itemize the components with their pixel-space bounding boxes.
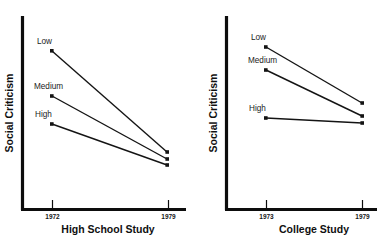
left-chart-point-medium-1972	[50, 94, 54, 98]
left-chart-tick-label-1979: 1979	[161, 213, 176, 220]
right-chart-series-high-line	[266, 118, 362, 123]
chart-panel-college-study: Low Medium High 1973 1979 College Study …	[196, 0, 386, 245]
right-chart-point-low-1979	[360, 101, 364, 105]
chart-panel-high-school-study: Low Medium High 1972 1979 High School St…	[0, 0, 196, 245]
right-chart-point-low-1973	[264, 45, 268, 49]
right-chart-series-label-high: High	[249, 104, 266, 113]
right-chart-series-label-medium: Medium	[248, 56, 277, 65]
left-chart-y-axis-title: Social Criticism	[3, 74, 15, 153]
right-chart-tick-label-1973: 1973	[259, 213, 274, 220]
left-chart-point-low-1979	[165, 150, 169, 154]
right-chart-tick-label-1979: 1979	[355, 213, 370, 220]
left-chart-x-axis-title: High School Study	[61, 223, 154, 235]
two-panel-line-chart-figure: Low Medium High 1972 1979 High School St…	[0, 0, 386, 245]
left-chart-svg: Low Medium High 1972 1979 High School St…	[0, 0, 196, 245]
right-chart-series-label-low: Low	[251, 33, 266, 42]
left-chart-tick-label-1972: 1972	[45, 213, 60, 220]
right-chart-series-medium-line	[266, 70, 362, 116]
right-chart-svg: Low Medium High 1973 1979 College Study …	[196, 0, 386, 245]
right-chart-y-axis-title: Social Criticism	[207, 74, 219, 153]
left-chart-point-high-1979	[165, 163, 169, 167]
left-chart-series-medium-line	[52, 96, 167, 159]
right-chart-x-axis-title: College Study	[279, 223, 349, 235]
left-chart-series-label-medium: Medium	[34, 82, 63, 91]
left-chart-series-high-line	[52, 124, 167, 165]
right-chart-point-high-1979	[360, 121, 364, 125]
right-chart-point-high-1973	[264, 116, 268, 120]
left-chart-series-label-high: High	[35, 110, 52, 119]
left-chart-point-high-1972	[50, 122, 54, 126]
left-chart-series-low-line	[52, 51, 167, 152]
left-chart-point-low-1972	[50, 49, 54, 53]
left-chart-point-medium-1979	[165, 157, 169, 161]
right-chart-series-low-line	[266, 47, 362, 103]
right-chart-point-medium-1973	[264, 68, 268, 72]
right-chart-point-medium-1979	[360, 114, 364, 118]
left-chart-series-label-low: Low	[37, 37, 52, 46]
